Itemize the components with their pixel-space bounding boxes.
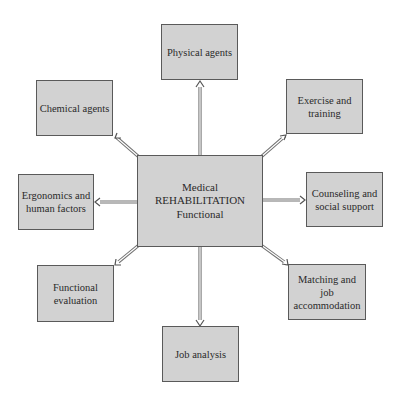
node-functional-evaluation: Functional evaluation [37, 265, 114, 322]
center-line-1: Medical [182, 181, 218, 195]
center-line-2: REHABILITATION [155, 194, 245, 208]
node-counseling-social-support: Counseling and social support [306, 172, 383, 227]
node-chemical-agents: Chemical agents [36, 80, 113, 136]
rehabilitation-diagram: Medical REHABILITATION Functional Physic… [0, 0, 400, 397]
node-matching-job-accommodation: Matching and job accommodation [288, 264, 366, 320]
node-ergonomics-human-factors: Ergonomics and human factors [18, 174, 94, 230]
center-box-medical-rehabilitation: Medical REHABILITATION Functional [137, 155, 263, 247]
node-exercise-training: Exercise and training [286, 79, 363, 134]
center-line-3: Functional [176, 208, 223, 222]
node-physical-agents: Physical agents [161, 24, 238, 80]
node-job-analysis: Job analysis [162, 326, 239, 382]
